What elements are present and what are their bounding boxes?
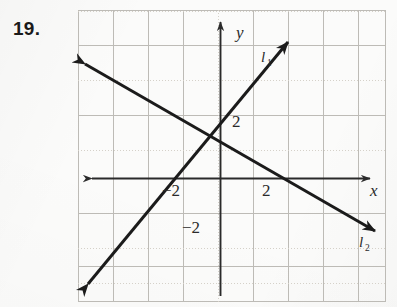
coordinate-graph: y x 2 2 −2 −2 l 1 l 2 bbox=[0, 0, 397, 307]
line-l2 bbox=[85, 64, 375, 231]
line-label-l2: l 2 bbox=[359, 234, 370, 253]
x-axis-label: x bbox=[369, 181, 378, 200]
line-label-l1: l 1 bbox=[261, 49, 272, 68]
x-tick-label-negative-2: −2 bbox=[162, 181, 180, 200]
line-label-l2-letter: l bbox=[359, 234, 363, 250]
plotted-lines bbox=[85, 42, 375, 284]
y-tick-label-negative-2: −2 bbox=[182, 218, 200, 237]
line-label-l2-subscript: 2 bbox=[365, 243, 370, 253]
y-tick-label-2: 2 bbox=[232, 112, 241, 131]
x-tick-label-2: 2 bbox=[262, 181, 271, 200]
y-axis-label: y bbox=[234, 23, 244, 42]
line-label-l1-letter: l bbox=[261, 49, 265, 65]
exercise-figure: 19. bbox=[0, 0, 397, 307]
line-label-l1-subscript: 1 bbox=[267, 58, 272, 68]
grid-lines bbox=[78, 10, 386, 302]
axis-lines bbox=[92, 22, 370, 296]
